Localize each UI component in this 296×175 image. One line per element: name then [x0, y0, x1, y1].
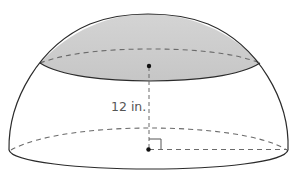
cap-center-point [147, 64, 151, 68]
height-label: 12 in. [111, 99, 146, 114]
shaded-cap-region [40, 14, 260, 81]
base-center-point [146, 147, 150, 151]
hemisphere-drawing [0, 0, 296, 175]
hemisphere-diagram: 12 in. [0, 0, 296, 175]
base-front-edge [9, 150, 288, 169]
right-angle-marker [149, 139, 161, 149]
